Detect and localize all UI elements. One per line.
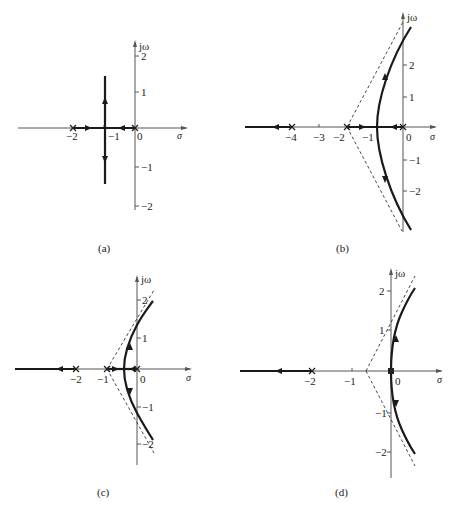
sigma-label: σ — [177, 130, 183, 141]
jw-axis-arrow-icon — [135, 275, 139, 282]
x-tick-label: −2 — [333, 131, 345, 143]
x-tick-label: −1 — [108, 130, 120, 142]
x-tick-label: 0 — [137, 130, 143, 142]
panel-a: −2 −1 0 σ jω 2 1 −1 −2 (a) — [18, 40, 188, 255]
double-pole-marker-icon — [388, 368, 394, 374]
x-tick-label: −1 — [362, 131, 374, 143]
y-tick-label: 1 — [409, 91, 415, 103]
y-tick-label: −1 — [375, 407, 387, 419]
y-tick-label: −2 — [409, 185, 421, 197]
jw-label: jω — [406, 11, 417, 23]
y-tick-label: 1 — [379, 324, 385, 336]
asymptote-lower — [347, 127, 402, 231]
x-tick-label: −2 — [70, 373, 82, 385]
panel-caption: (b) — [336, 242, 349, 255]
locus-arrow-left-icon — [390, 124, 397, 130]
y-tick-label: 1 — [141, 86, 147, 98]
y-tick-label: −2 — [142, 438, 154, 450]
x-tick-label: 0 — [395, 375, 401, 387]
jw-axis-arrow-icon — [133, 40, 137, 47]
y-tick-label: 2 — [142, 294, 148, 306]
sigma-axis-arrow-icon — [430, 125, 437, 129]
x-tick-label: −2 — [66, 130, 78, 142]
sigma-axis-arrow-icon — [436, 369, 443, 373]
sigma-label: σ — [430, 131, 436, 142]
y-tick-label: 2 — [409, 59, 415, 71]
y-tick-label: −1 — [409, 154, 421, 166]
y-tick-label: −1 — [142, 401, 154, 413]
complex-locus-upper — [377, 27, 411, 127]
panel-caption: (a) — [98, 242, 111, 255]
sigma-axis-arrow-icon — [185, 367, 192, 371]
locus-arrow-left-icon — [275, 368, 282, 374]
panel-caption: (c) — [97, 486, 110, 499]
x-tick-label: 0 — [406, 131, 412, 143]
y-tick-label: 2 — [141, 50, 147, 62]
panel-caption: (d) — [335, 486, 348, 499]
asymptote-upper — [347, 22, 403, 127]
locus-arrow-down-icon — [102, 156, 108, 163]
locus-arrow-right-icon — [112, 366, 119, 372]
x-tick-label: −2 — [304, 375, 316, 387]
locus-arrow-right-icon — [359, 124, 366, 130]
locus-arrow-left-icon — [272, 124, 279, 130]
x-tick-label: −4 — [285, 131, 297, 143]
sigma-label: σ — [186, 372, 192, 383]
panel-b: −4 −3 −2 −1 0 σ jω 2 1 −1 −2 (b) — [245, 11, 437, 255]
y-tick-label: 1 — [142, 332, 148, 344]
y-tick-label: −2 — [375, 446, 387, 458]
x-tick-label: −1 — [97, 373, 109, 385]
x-tick-label: 0 — [140, 373, 146, 385]
panel-c: −2 −1 0 σ jω 2 1 −1 −2 (c) — [15, 273, 192, 499]
locus-arrow-left-icon — [56, 366, 63, 372]
locus-arrow-up-icon — [102, 97, 108, 104]
complex-locus-upper — [124, 301, 153, 369]
jw-label: jω — [140, 273, 151, 285]
panel-d: −2 −1 0 σ jω 2 1 −1 −2 (d) — [240, 267, 443, 499]
x-tick-label: −1 — [344, 375, 356, 387]
complex-locus-upper — [391, 288, 415, 371]
x-tick-label: −3 — [313, 131, 325, 143]
sigma-axis-arrow-icon — [181, 126, 188, 130]
y-tick-label: 2 — [379, 285, 385, 297]
jw-axis-arrow-icon — [389, 268, 393, 275]
locus-arrow-right-icon — [85, 125, 92, 131]
sigma-label: σ — [437, 374, 443, 385]
y-tick-label: −2 — [141, 200, 153, 212]
jw-label: jω — [394, 267, 405, 279]
y-tick-label: −1 — [141, 161, 153, 173]
root-locus-figure: −2 −1 0 σ jω 2 1 −1 −2 (a) — [0, 0, 456, 511]
jw-axis-arrow-icon — [401, 12, 405, 19]
